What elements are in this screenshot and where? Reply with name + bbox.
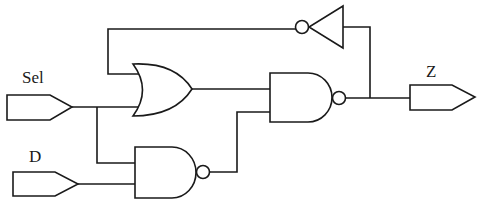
wires [72,27,410,184]
wire-sel-to-nand2 [97,107,135,163]
nand-gate-1 [270,73,346,122]
or-gate [133,64,192,116]
inverter-body [309,6,343,48]
input-port-d: D [13,147,78,196]
wire-to-inverter [343,27,370,98]
nand-gate-1-body [270,73,332,122]
nand-gate-2-bubble [197,166,210,179]
nand-gate-1-bubble [333,92,346,105]
label-sel: Sel [22,68,44,87]
inverter [296,6,344,48]
port-z-shape [410,85,475,110]
or-gate-body [133,64,192,116]
nand-gate-2 [135,147,210,198]
nand-gate-2-body [135,147,196,198]
wire-nand2-to-nand1 [209,112,270,172]
inverter-bubble [296,21,309,34]
port-sel-shape [7,95,72,120]
label-d: D [29,147,41,166]
output-port-z: Z [410,62,475,110]
logic-circuit-diagram: Sel D Z [0,0,484,205]
label-z: Z [426,62,436,81]
input-port-sel: Sel [7,68,72,120]
port-d-shape [13,172,78,196]
